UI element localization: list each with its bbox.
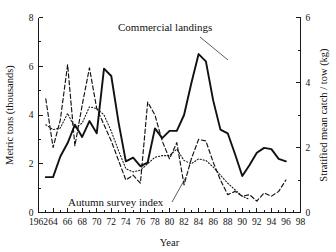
- annotation-label: Commercial landings: [118, 21, 212, 33]
- series-dashed: [46, 65, 286, 202]
- x-tick-label: 70: [92, 217, 102, 227]
- x-tick-label: 64: [48, 217, 58, 227]
- x-tick-label: 80: [165, 217, 175, 227]
- x-tick-label: 1962: [29, 217, 48, 227]
- axes-group: [39, 18, 301, 213]
- x-tick-label: 90: [238, 217, 248, 227]
- y-tick-label-right: 4: [306, 78, 311, 88]
- x-tick-label: 66: [63, 217, 73, 227]
- annotation-leader-line: [172, 177, 186, 202]
- x-tick-label: 98: [296, 217, 306, 227]
- y-tick-label-left: 2: [29, 159, 34, 169]
- x-tick-label: 76: [136, 217, 146, 227]
- x-tick-label: 86: [208, 217, 218, 227]
- x-tick-label: 72: [107, 217, 117, 227]
- x-tick-label: 82: [179, 217, 189, 227]
- y-axis-left-title: Metric tons (thousands): [4, 65, 16, 165]
- annotation-leader-line: [200, 37, 228, 60]
- y-tick-label-right: 0: [306, 208, 311, 218]
- x-axis-title: Year: [160, 237, 180, 248]
- chart-figure: 1962646668707274767880828486889092949698…: [0, 0, 336, 252]
- x-tick-label: 96: [281, 217, 291, 227]
- x-tick-label: 88: [223, 217, 233, 227]
- y-tick-label-right: 6: [306, 13, 311, 23]
- tick-marks: [39, 18, 301, 213]
- x-tick-label: 92: [252, 217, 262, 227]
- y-tick-label-left: 6: [29, 62, 34, 72]
- data-series-group: [46, 54, 286, 201]
- chart-canvas: 1962646668707274767880828486889092949698…: [0, 0, 336, 252]
- annotations-group: Commercial landingsAutumn survey index: [68, 21, 228, 208]
- x-tick-label: 94: [267, 217, 277, 227]
- x-tick-label: 84: [194, 217, 204, 227]
- x-tick-label: 74: [121, 217, 131, 227]
- y-axis-right-title: Stratified mean catch / tow (kg): [318, 48, 330, 182]
- x-tick-label: 68: [77, 217, 87, 227]
- y-tick-label-left: 8: [29, 13, 34, 23]
- annotation-label: Autumn survey index: [68, 196, 164, 208]
- y-tick-label-right: 2: [306, 143, 311, 153]
- x-tick-label: 78: [150, 217, 160, 227]
- y-tick-label-left: 4: [29, 110, 34, 120]
- y-tick-label-left: 0: [29, 208, 34, 218]
- series-solid: [46, 54, 286, 177]
